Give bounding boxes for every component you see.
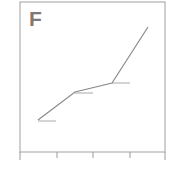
line-chart xyxy=(0,0,179,177)
reference-dashes xyxy=(38,83,130,121)
panel-label: F xyxy=(29,8,42,29)
x-axis-ticks xyxy=(20,152,165,160)
data-line xyxy=(38,27,148,120)
